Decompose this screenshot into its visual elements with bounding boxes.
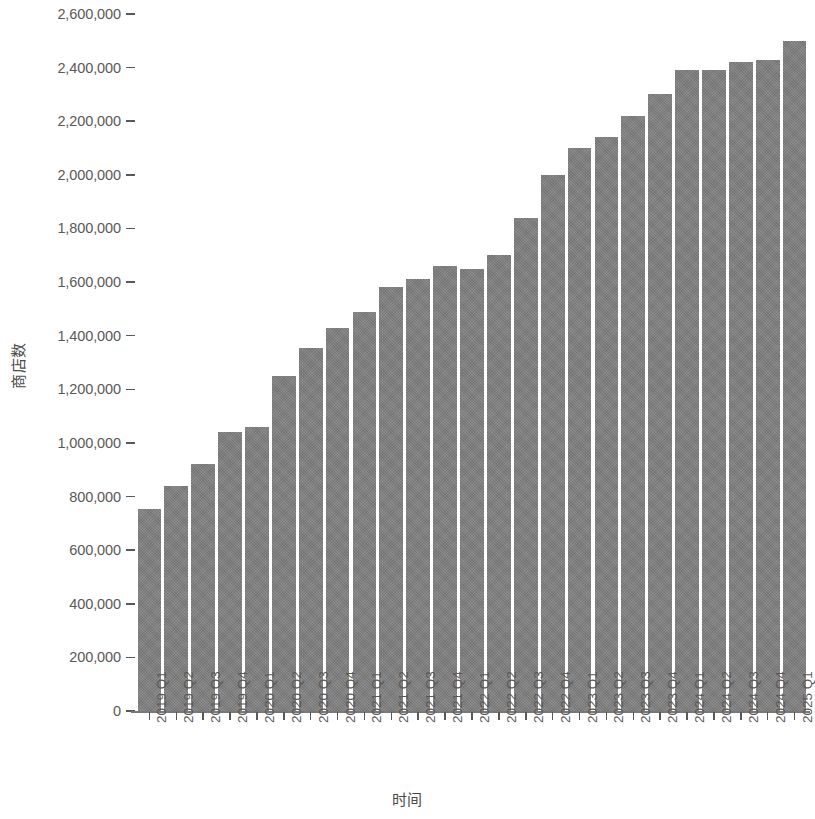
x-axis-tick-mark xyxy=(364,712,366,720)
x-axis-tick-label: 2023 Q1 xyxy=(585,671,600,723)
bar[interactable] xyxy=(326,328,350,711)
y-axis-tick-mark xyxy=(126,13,135,15)
bar[interactable] xyxy=(541,175,565,711)
y-axis-tick-mark xyxy=(126,496,135,498)
y-axis-tick-mark xyxy=(126,442,135,444)
x-axis-tick-mark xyxy=(713,712,715,720)
y-axis-tick: 2,200,000 xyxy=(57,113,136,129)
x-axis-tick-label: 2021 Q3 xyxy=(423,671,438,723)
bar[interactable] xyxy=(595,137,619,711)
x-axis-tick-label: 2020 Q4 xyxy=(343,671,358,723)
y-axis-tick-mark xyxy=(126,281,135,283)
y-axis-tick: 800,000 xyxy=(69,489,136,505)
y-axis-tick-mark xyxy=(126,335,135,337)
x-axis-tick-mark xyxy=(659,712,661,720)
x-axis-tick-mark xyxy=(256,712,258,720)
y-axis-tick-mark xyxy=(126,120,135,122)
x-axis-tick-label: 2019 Q1 xyxy=(154,671,169,723)
x-axis-tick-label: 2024 Q2 xyxy=(719,671,734,723)
x-axis-tick-label: 2024 Q1 xyxy=(692,671,707,723)
x-axis-tick-mark xyxy=(176,712,178,720)
bar[interactable] xyxy=(783,41,807,711)
x-axis-tick-mark xyxy=(391,712,393,720)
y-axis-tick-label: 2,200,000 xyxy=(57,113,121,129)
y-axis-tick: 2,600,000 xyxy=(57,6,136,22)
x-axis-title: 时间 xyxy=(0,788,814,809)
bar[interactable] xyxy=(729,62,753,711)
y-axis-tick-label: 1,600,000 xyxy=(57,274,121,290)
y-axis-tick: 1,800,000 xyxy=(57,220,136,236)
x-axis-tick-mark xyxy=(444,712,446,720)
bar[interactable] xyxy=(460,269,484,711)
y-axis-tick: 400,000 xyxy=(69,596,136,612)
y-axis-tick-group: 2,600,0002,400,0002,200,0002,000,0001,80… xyxy=(34,0,136,730)
y-axis-tick: 1,000,000 xyxy=(57,435,136,451)
bar[interactable] xyxy=(272,376,296,711)
x-axis-tick-mark xyxy=(149,712,151,720)
y-axis-tick-mark xyxy=(126,228,135,230)
x-axis-tick-mark xyxy=(525,712,527,720)
bar[interactable] xyxy=(406,279,430,711)
y-axis-tick-mark xyxy=(126,603,135,605)
bar[interactable] xyxy=(756,60,780,711)
y-axis-tick-label: 2,400,000 xyxy=(57,60,121,76)
x-axis-tick-mark xyxy=(686,712,688,720)
x-axis-tick-label: 2023 Q3 xyxy=(638,671,653,723)
y-axis-tick-label: 200,000 xyxy=(69,649,121,665)
plot-area xyxy=(136,10,808,711)
y-axis-tick-mark xyxy=(126,389,135,391)
x-axis-tick-label: 2019 Q2 xyxy=(181,671,196,723)
y-axis-tick-label: 1,800,000 xyxy=(57,220,121,236)
x-axis-tick-mark xyxy=(740,712,742,720)
x-axis-tick-label: 2022 Q4 xyxy=(558,671,573,723)
x-axis-tick-mark xyxy=(283,712,285,720)
bar[interactable] xyxy=(514,218,538,711)
x-axis-tick-mark xyxy=(794,712,796,720)
x-axis-tick-label: 2020 Q1 xyxy=(262,671,277,723)
bar[interactable] xyxy=(648,94,672,711)
y-axis-title: 商店数 xyxy=(0,0,34,730)
bar[interactable] xyxy=(621,116,645,711)
bar[interactable] xyxy=(218,432,242,711)
x-axis-tick-label: 2022 Q1 xyxy=(477,671,492,723)
y-axis-tick: 2,000,000 xyxy=(57,167,136,183)
y-axis-tick-mark xyxy=(126,549,135,551)
y-axis-tick-label: 600,000 xyxy=(69,542,121,558)
x-axis-tick-mark xyxy=(229,712,231,720)
y-axis-tick-label: 0 xyxy=(113,703,121,719)
x-axis-tick-mark xyxy=(202,712,204,720)
x-axis-tick-mark xyxy=(767,712,769,720)
y-axis-tick-label: 1,400,000 xyxy=(57,328,121,344)
x-axis-tick-mark xyxy=(633,712,635,720)
bar[interactable] xyxy=(379,287,403,711)
x-axis-tick-mark xyxy=(471,712,473,720)
bar[interactable] xyxy=(353,312,377,711)
x-axis-tick-label: 2023 Q4 xyxy=(665,671,680,723)
x-axis-tick-label: 2025 Q1 xyxy=(800,671,815,723)
y-axis-tick-mark xyxy=(126,67,135,69)
bar[interactable] xyxy=(675,70,699,711)
x-axis-tick-mark xyxy=(310,712,312,720)
y-axis-tick: 1,600,000 xyxy=(57,274,136,290)
y-axis-title-label: 商店数 xyxy=(7,342,28,389)
x-axis-tick-label: 2021 Q2 xyxy=(396,671,411,723)
x-axis-tick-label: 2019 Q4 xyxy=(235,671,250,723)
bar[interactable] xyxy=(487,255,511,711)
x-axis-tick-mark xyxy=(417,712,419,720)
bar[interactable] xyxy=(299,348,323,711)
x-axis-tick-label: 2022 Q2 xyxy=(504,671,519,723)
bar[interactable] xyxy=(245,427,269,711)
x-axis-tick-mark xyxy=(579,712,581,720)
bar[interactable] xyxy=(568,148,592,711)
y-axis-tick-label: 800,000 xyxy=(69,489,121,505)
y-axis-tick: 200,000 xyxy=(69,649,136,665)
y-axis-tick: 1,400,000 xyxy=(57,328,136,344)
bar[interactable] xyxy=(433,266,457,711)
bar[interactable] xyxy=(702,70,726,711)
y-axis-tick-label: 1,200,000 xyxy=(57,381,121,397)
y-axis-tick-label: 1,000,000 xyxy=(57,435,121,451)
x-axis-tick-label: 2024 Q3 xyxy=(746,671,761,723)
x-axis-tick-mark xyxy=(498,712,500,720)
y-axis-tick: 600,000 xyxy=(69,542,136,558)
